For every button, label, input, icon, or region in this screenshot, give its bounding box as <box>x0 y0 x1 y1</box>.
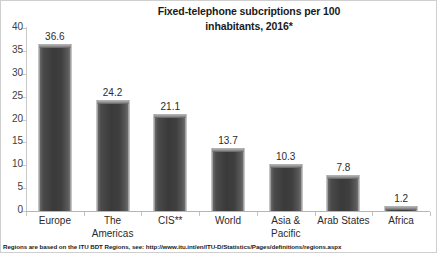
bar-slot: 7.8 <box>315 27 373 211</box>
bar-value-label: 24.2 <box>103 87 122 98</box>
bar[interactable] <box>154 114 187 211</box>
bar[interactable] <box>327 175 360 211</box>
bar[interactable] <box>38 44 71 211</box>
bar-slot: 1.2 <box>372 27 430 211</box>
x-axis-category-label: TheAmericas <box>80 215 146 240</box>
bar-top-cap <box>39 44 70 48</box>
bar-value-label: 36.6 <box>45 31 64 42</box>
y-axis-tick-label: 30 <box>12 67 23 78</box>
y-axis-tick-label: 10 <box>12 158 23 169</box>
x-axis-category-label: CIS** <box>137 215 203 228</box>
y-axis-tick-label: 0 <box>17 204 23 215</box>
bar-value-label: 1.2 <box>394 193 408 204</box>
category-label-line1: Africa <box>388 215 414 226</box>
bar[interactable] <box>385 206 418 211</box>
x-axis-category-label: Europe <box>22 215 88 228</box>
bar-value-label: 7.8 <box>336 162 350 173</box>
chart-title-line1: Fixed-telephone subcriptions per 100 <box>158 5 341 17</box>
bar-top-cap <box>328 175 359 179</box>
bar-top-cap <box>97 100 128 104</box>
bar-slot: 24.2 <box>84 27 142 211</box>
category-label-line1: Arab States <box>317 215 369 226</box>
x-axis-category-label: Arab States <box>310 215 376 228</box>
bar-slot: 10.3 <box>257 27 315 211</box>
chart-footnote: Regions are based on the ITU BDT Regions… <box>3 243 341 250</box>
x-axis-category-label: World <box>195 215 261 228</box>
bar-slot: 13.7 <box>199 27 257 211</box>
bar-top-cap <box>155 114 186 118</box>
category-label-line1: Asia & <box>271 215 300 226</box>
y-axis-tick-label: 25 <box>12 90 23 101</box>
category-label-line2: Pacific <box>253 228 319 241</box>
category-label-line1: CIS** <box>158 215 182 226</box>
x-axis-category-label: Africa <box>368 215 434 228</box>
bar-top-cap <box>212 148 243 152</box>
category-label-line1: Europe <box>39 215 71 226</box>
category-label-line1: World <box>215 215 241 226</box>
x-axis-category-label: Asia &Pacific <box>253 215 319 240</box>
bar-slot: 36.6 <box>26 27 84 211</box>
bar-top-cap <box>386 206 417 210</box>
bar[interactable] <box>269 164 302 211</box>
bar-slot: 21.1 <box>141 27 199 211</box>
y-axis-tick-label: 15 <box>12 135 23 146</box>
plot-area: 0510152025303540 36.624.221.113.710.37.8… <box>26 27 430 212</box>
bar[interactable] <box>96 100 129 211</box>
x-axis-line <box>26 211 430 212</box>
bar[interactable] <box>211 148 244 211</box>
y-axis-tick-label: 20 <box>12 113 23 124</box>
bar-value-label: 21.1 <box>161 101 180 112</box>
bar-value-label: 13.7 <box>218 135 237 146</box>
y-axis-tick-label: 35 <box>12 44 23 55</box>
category-label-line1: The <box>104 215 121 226</box>
category-label-line2: Americas <box>80 228 146 241</box>
bar-value-label: 10.3 <box>276 151 295 162</box>
y-axis-tick-label: 5 <box>17 181 23 192</box>
bar-top-cap <box>270 164 301 168</box>
chart-container: Fixed-telephone subcriptions per 100 inh… <box>0 0 437 253</box>
y-axis-tick-label: 40 <box>12 21 23 32</box>
